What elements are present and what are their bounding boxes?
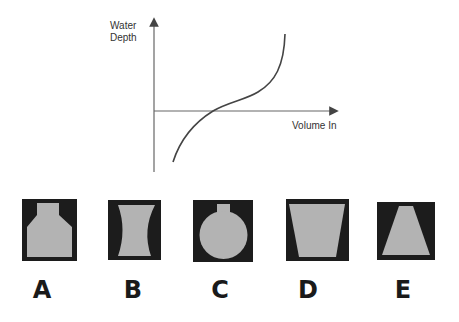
option-label-d: D (288, 276, 328, 304)
water-depth-graph (0, 0, 459, 190)
vessel-a (22, 199, 77, 261)
y-axis-label-line2: Depth (110, 32, 137, 44)
vessel-c (193, 200, 253, 262)
vessel-b (108, 200, 161, 260)
y-axis-label: Water Depth (110, 20, 137, 44)
vessel-d (286, 199, 349, 261)
option-label-c: C (200, 276, 240, 304)
x-axis-label: Volume In (292, 120, 336, 132)
y-axis-label-line1: Water (110, 20, 137, 32)
depth-curve (173, 34, 285, 162)
vessel-e (377, 202, 435, 260)
option-label-e: E (383, 276, 423, 304)
option-label-b: B (113, 276, 153, 304)
option-label-a: A (22, 276, 62, 304)
